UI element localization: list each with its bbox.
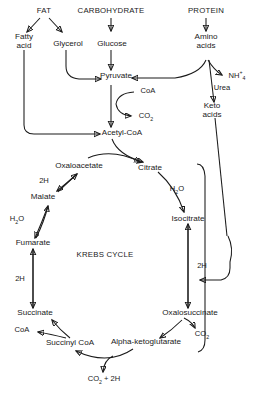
cofactor-co2-2h-bottom: CO2 + 2H bbox=[88, 375, 121, 385]
cofactor-coa-succinate: CoA bbox=[15, 326, 30, 334]
node-keto-acids: Keto acids bbox=[203, 102, 222, 119]
node-malate: Malate bbox=[31, 193, 55, 202]
node-succinate: Succinate bbox=[17, 309, 53, 318]
node-isocitrate: Isocitrate bbox=[172, 215, 205, 224]
node-citrate: Citrate bbox=[138, 164, 162, 173]
node-alpha-ketoglutarate: Alpha-ketoglutarate bbox=[111, 338, 181, 347]
cofactor-h2o-citrate: H2O bbox=[170, 185, 184, 195]
node-fumarate: Fumarate bbox=[16, 239, 51, 248]
node-urea: Urea bbox=[214, 84, 230, 92]
node-pyruvate: Pyruvate bbox=[100, 72, 132, 81]
cofactor-co2-oxalosuccinate: CO2 bbox=[195, 330, 209, 340]
node-amino-acids: Amino acids bbox=[195, 33, 218, 50]
node-oxalosuccinate: Oxalosuccinate bbox=[162, 309, 217, 318]
node-carbohydrate: CARBOHYDRATE bbox=[78, 7, 145, 15]
node-fatty-acid: Fatty acid bbox=[15, 33, 33, 50]
node-oxaloacetate: Oxaloacetate bbox=[55, 162, 103, 171]
node-glycerol: Glycerol bbox=[53, 40, 83, 49]
cofactor-2h-malate: 2H bbox=[39, 177, 49, 185]
cofactor-co2-pyruvate: CO2 bbox=[139, 112, 153, 122]
cofactor-ammonium: NH+4 bbox=[229, 70, 246, 82]
cofactor-2h-isocitrate: 2H bbox=[197, 262, 207, 270]
cofactor-h2o-fumarate: H2O bbox=[10, 215, 24, 225]
cofactor-coa-pyruvate: CoA bbox=[141, 87, 156, 95]
node-acetyl-coa: Acetyl-CoA bbox=[102, 129, 142, 138]
node-succinyl-coa: Succinyl CoA bbox=[46, 339, 94, 348]
krebs-cycle-center-label: KREBS CYCLE bbox=[77, 251, 134, 259]
cofactor-2h-succinate: 2H bbox=[15, 275, 25, 283]
node-glucose: Glucose bbox=[97, 40, 127, 49]
node-fat: FAT bbox=[37, 7, 51, 15]
node-protein: PROTEIN bbox=[188, 7, 224, 15]
